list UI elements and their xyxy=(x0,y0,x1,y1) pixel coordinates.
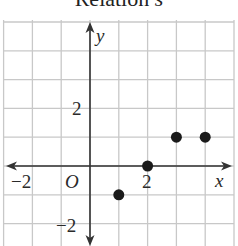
x-tick-label-neg2: −2 xyxy=(11,171,31,192)
data-point xyxy=(113,189,124,200)
x-axis-label: x xyxy=(214,170,224,191)
x-tick-label-2: 2 xyxy=(142,171,152,192)
y-axis-label: y xyxy=(94,25,105,46)
axis-labels: y x O −2 2 2 −2 xyxy=(11,25,224,236)
origin-label: O xyxy=(65,171,79,192)
grid xyxy=(4,20,234,246)
data-point xyxy=(200,132,211,143)
data-point xyxy=(142,161,153,172)
coordinate-plane: y x O −2 2 2 −2 xyxy=(0,0,238,246)
y-tick-label-neg2: −2 xyxy=(56,215,76,236)
data-point xyxy=(171,132,182,143)
y-tick-label-2: 2 xyxy=(72,98,82,119)
